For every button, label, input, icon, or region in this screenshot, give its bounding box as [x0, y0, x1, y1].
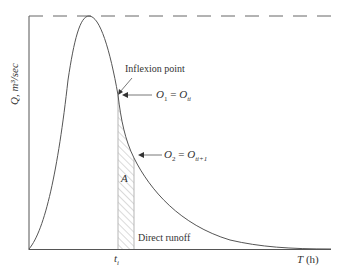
inflexion-pointer [120, 78, 132, 92]
o2-right-sub: ti+1 [195, 155, 207, 163]
o2-label: O2 = Oti+1 [164, 148, 207, 163]
o1-label: O1 = Oti [156, 88, 191, 103]
o2-arrowhead [138, 152, 144, 158]
tick-ti: ti [114, 252, 119, 267]
o1-left: O [156, 88, 164, 100]
area-a-text: A [121, 172, 128, 184]
hydrograph-curve [29, 16, 331, 249]
o1-eq: = [167, 88, 179, 100]
x-axis-var: T [297, 253, 303, 265]
y-axis-label-text: Q, m³/sec [8, 63, 20, 105]
direct-runoff-label: Direct runoff [138, 232, 190, 243]
y-axis-label: Q, m³/sec [8, 63, 20, 105]
o1-arrowhead [122, 92, 128, 98]
o1-right-sub: ti [187, 95, 191, 103]
o2-eq: = [175, 148, 187, 160]
direct-runoff-text: Direct runoff [138, 232, 190, 243]
x-axis-label: T (h) [297, 253, 319, 265]
o2-right: O [187, 148, 195, 160]
tick-ti-sub: i [117, 259, 119, 267]
inflexion-label: Inflexion point [125, 63, 185, 74]
area-a-label: A [121, 172, 128, 184]
o2-left: O [164, 148, 172, 160]
o1-right: O [179, 88, 187, 100]
inflexion-text: Inflexion point [125, 63, 185, 74]
x-axis-unit: (h) [306, 253, 319, 265]
